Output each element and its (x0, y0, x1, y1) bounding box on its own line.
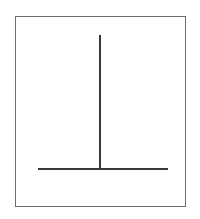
horizontal-line (38, 168, 168, 170)
figure-caption (0, 214, 200, 219)
figure-frame (15, 16, 186, 207)
vertical-line (99, 35, 101, 170)
